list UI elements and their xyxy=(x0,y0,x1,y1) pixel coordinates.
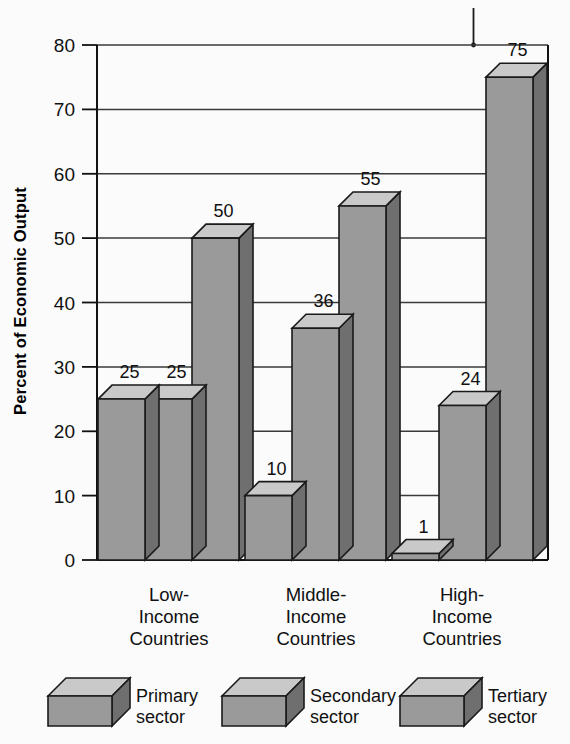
value-label-0-2: 50 xyxy=(213,201,233,221)
bar-face xyxy=(145,385,159,560)
legend-label-0-line1: Primary xyxy=(136,686,198,706)
y-tick-label-80: 80 xyxy=(54,35,75,56)
category-line-0-2: Countries xyxy=(129,628,208,649)
bar-2-1[interactable] xyxy=(439,392,500,561)
value-label-1-0: 10 xyxy=(266,459,286,479)
cube-icon xyxy=(48,678,130,726)
bar-face xyxy=(386,192,400,560)
y-tick-label-10: 10 xyxy=(54,486,75,507)
bar-face xyxy=(439,406,486,561)
value-label-2-1: 24 xyxy=(460,369,480,389)
bar-0-0[interactable] xyxy=(98,385,159,560)
legend-label-2-line1: Tertiary xyxy=(488,686,547,706)
y-axis-tick-labels: 80 70 60 50 40 30 20 10 0 xyxy=(54,35,75,571)
bar-1-0[interactable] xyxy=(245,482,306,560)
category-label-group-1: Middle- Income Countries xyxy=(276,584,355,649)
cube-icon xyxy=(222,678,304,726)
y-tick-label-30: 30 xyxy=(54,357,75,378)
bar-face xyxy=(245,496,292,560)
bar-face xyxy=(192,385,206,560)
value-label-0-1: 25 xyxy=(166,362,186,382)
value-label-2-0: 1 xyxy=(418,517,428,537)
category-line-1-0: Middle- xyxy=(286,584,347,605)
y-tick-label-60: 60 xyxy=(54,164,75,185)
chart-canvas: Percent of Economic Output 80 70 xyxy=(0,0,570,744)
y-tick-label-20: 20 xyxy=(54,421,75,442)
category-line-0-0: Low- xyxy=(149,584,189,605)
bar-chart-figure: Percent of Economic Output 80 70 xyxy=(0,0,570,744)
category-line-2-1: Income xyxy=(432,606,493,627)
legend-label-1-line2: sector xyxy=(310,707,359,727)
y-tick-label-0: 0 xyxy=(64,550,75,571)
category-line-1-2: Countries xyxy=(276,628,355,649)
category-line-0-1: Income xyxy=(139,606,200,627)
bar-face xyxy=(486,392,500,561)
category-line-2-0: High- xyxy=(440,584,484,605)
bar-face xyxy=(339,314,353,560)
value-label-1-2: 55 xyxy=(360,169,380,189)
legend-label-0-line2: sector xyxy=(136,707,185,727)
bar-face xyxy=(392,554,439,560)
bar-face xyxy=(98,399,145,560)
y-tick-label-50: 50 xyxy=(54,228,75,249)
value-label-1-1: 36 xyxy=(313,291,333,311)
x-axis-category-labels: Low- Income Countries Middle- Income Cou… xyxy=(129,584,501,649)
legend-label-1-line1: Secondary xyxy=(310,686,396,706)
bar-face xyxy=(533,63,547,560)
legend-label-2-line2: sector xyxy=(488,707,537,727)
category-line-2-2: Countries xyxy=(422,628,501,649)
value-label-0-0: 25 xyxy=(119,362,139,382)
y-tick-label-40: 40 xyxy=(54,293,75,314)
y-axis-title: Percent of Economic Output xyxy=(11,187,29,415)
y-tick-label-70: 70 xyxy=(54,99,75,120)
cube-icon xyxy=(400,678,482,726)
category-line-1-1: Income xyxy=(286,606,347,627)
value-label-2-2: 75 xyxy=(507,40,527,60)
